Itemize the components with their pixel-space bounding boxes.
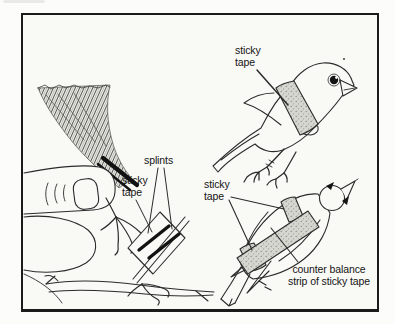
splints-label: splints <box>144 154 173 166</box>
index-finger <box>24 166 115 214</box>
feet-marks <box>259 281 271 290</box>
sticky-tape-leg-leader <box>136 200 152 232</box>
perch-branch <box>45 276 214 301</box>
legs-and-feet <box>244 149 296 188</box>
sticky-tape-body-label: sticky tape <box>235 44 261 68</box>
head <box>320 179 359 211</box>
diagram-page: splints sticky tape sticky tape sticky t… <box>0 0 395 324</box>
head-feather-dot <box>343 58 345 60</box>
tape-rectangle <box>128 212 185 274</box>
counter-balance-label: counter balance strip of sticky tape <box>276 263 382 287</box>
bird-side-view-illustration <box>213 58 357 188</box>
hand-holding-leg-illustration <box>24 85 214 305</box>
sticky-tape-wings-label: sticky tape <box>204 178 230 202</box>
sticky-tape-leg-label: sticky tape <box>122 174 148 198</box>
